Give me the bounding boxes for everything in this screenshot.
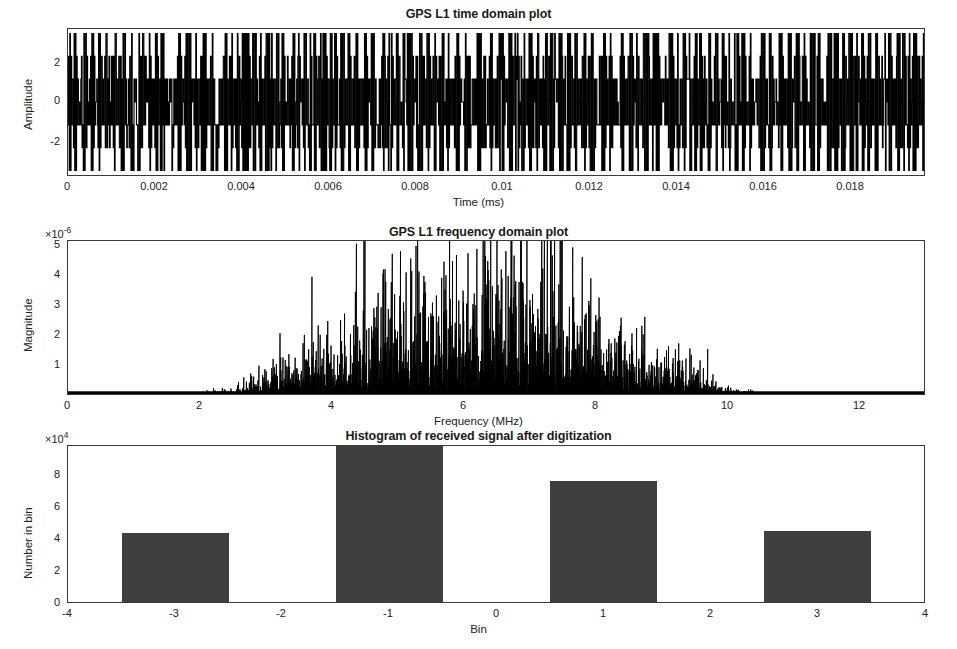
freq-ytick-4: 1 [40, 358, 60, 370]
freq-ytick-0: 5 [40, 238, 60, 250]
histogram-bar [336, 446, 443, 602]
freq-xtick-4: 8 [592, 399, 598, 411]
time-ytick-1: 0 [38, 94, 60, 106]
freq-xtick-0: 0 [64, 399, 70, 411]
hist-xtick-8: 4 [922, 607, 928, 619]
hist-xtick-5: 1 [600, 607, 606, 619]
histogram-xlabel: Bin [0, 623, 957, 635]
time-xtick-0: 0 [64, 180, 70, 192]
freq-xtick-3: 6 [460, 399, 466, 411]
time-xtick-4: 0.008 [401, 180, 429, 192]
time-xtick-9: 0.018 [836, 180, 864, 192]
freq-ytick-2: 3 [40, 298, 60, 310]
hist-xtick-7: 3 [814, 607, 820, 619]
histogram-y-exponent: ×104 [45, 430, 68, 445]
freq-xtick-2: 4 [328, 399, 334, 411]
freq-xtick-6: 12 [853, 399, 865, 411]
freq-ytick-1: 4 [40, 268, 60, 280]
time-domain-waveform [68, 29, 924, 175]
frequency-y-exponent-power: -6 [64, 225, 72, 235]
hist-ytick-1: 6 [40, 500, 60, 512]
matlab-figure: GPS L1 time domain plot Amplitude 2 0 -2… [0, 0, 957, 649]
histogram-bar [122, 533, 229, 602]
time-xtick-2: 0.004 [227, 180, 255, 192]
time-xtick-8: 0.016 [749, 180, 777, 192]
histogram-y-exponent-power: 4 [64, 430, 69, 440]
time-xtick-6: 0.012 [575, 180, 603, 192]
hist-xtick-2: -2 [276, 607, 286, 619]
time-ytick-0: 2 [38, 56, 60, 68]
histogram-bar [764, 531, 871, 602]
time-ytick-2: -2 [34, 135, 60, 147]
hist-xtick-6: 2 [707, 607, 713, 619]
histogram-title: Histogram of received signal after digit… [0, 429, 957, 443]
time-xtick-3: 0.006 [314, 180, 342, 192]
time-domain-ylabel: Amplitude [22, 79, 34, 130]
hist-ytick-0: 8 [40, 468, 60, 480]
time-xtick-5: 0.01 [491, 180, 512, 192]
histogram-y-exponent-base: ×10 [45, 433, 64, 445]
histogram-bar [550, 481, 657, 602]
panel-time-domain: GPS L1 time domain plot Amplitude 2 0 -2… [0, 0, 957, 205]
hist-ytick-2: 4 [40, 532, 60, 544]
panel-frequency-domain: GPS L1 frequency domain plot ×10-6 Magni… [0, 212, 957, 424]
time-domain-xlabel: Time (ms) [0, 196, 957, 208]
time-xtick-7: 0.014 [662, 180, 690, 192]
time-domain-axes [67, 28, 925, 176]
freq-xtick-5: 10 [721, 399, 733, 411]
hist-ytick-3: 2 [40, 564, 60, 576]
hist-xtick-4: 0 [493, 607, 499, 619]
frequency-domain-axes [67, 240, 925, 395]
hist-xtick-0: -4 [62, 607, 72, 619]
histogram-axes [67, 445, 925, 603]
hist-xtick-1: -3 [169, 607, 179, 619]
hist-ytick-4: 0 [40, 596, 60, 608]
histogram-ylabel: Number in bin [22, 507, 34, 579]
frequency-spectrum [68, 241, 924, 394]
hist-xtick-3: -1 [383, 607, 393, 619]
time-domain-title: GPS L1 time domain plot [0, 7, 957, 21]
freq-xtick-1: 2 [196, 399, 202, 411]
frequency-domain-ylabel: Magnitude [22, 298, 34, 352]
panel-histogram: Histogram of received signal after digit… [0, 424, 957, 649]
frequency-domain-title: GPS L1 frequency domain plot [0, 225, 957, 239]
time-xtick-1: 0.002 [140, 180, 168, 192]
freq-ytick-3: 2 [40, 328, 60, 340]
